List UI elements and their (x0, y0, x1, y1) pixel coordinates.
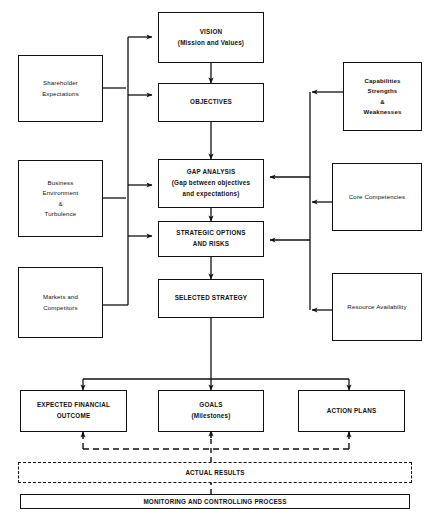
box-line: Turbulence (45, 209, 77, 219)
box-line: (Gap between objectives (172, 178, 250, 189)
box-objectives[interactable]: OBJECTIVES (158, 83, 264, 122)
box-vision[interactable]: VISION (Mission and Values) (158, 12, 264, 63)
box-line: OBJECTIVES (190, 97, 232, 108)
box-resource-availability[interactable]: Resource Availability (332, 273, 422, 341)
box-line: ACTION PLANS (327, 406, 377, 417)
box-line: Weaknesses (364, 107, 402, 117)
box-line: STRATEGIC OPTIONS (176, 228, 245, 239)
box-line: Markets and (43, 292, 78, 302)
box-selected-strategy[interactable]: SELECTED STRATEGY (158, 279, 264, 318)
box-action-plans[interactable]: ACTION PLANS (298, 390, 405, 432)
box-gap-analysis[interactable]: GAP ANALYSIS (Gap between objectives and… (158, 159, 264, 208)
box-monitoring-controlling-process[interactable]: MONITORING AND CONTROLLING PROCESS (20, 494, 410, 509)
box-actual-results[interactable]: ACTUAL RESULTS (18, 462, 412, 483)
box-line: Business (48, 178, 74, 188)
box-core-competencies[interactable]: Core Competencies (332, 163, 422, 231)
box-line: OUTCOME (57, 411, 91, 422)
actual-results-label: ACTUAL RESULTS (185, 469, 244, 476)
box-line: GOALS (199, 400, 222, 411)
box-line: & (58, 199, 62, 209)
box-line: Environment (43, 188, 79, 198)
box-line: (Mission and Values) (178, 38, 244, 49)
box-markets-competitors[interactable]: Markets and Competitors (18, 267, 103, 338)
box-line: SELECTED STRATEGY (175, 293, 248, 304)
monitoring-label: MONITORING AND CONTROLLING PROCESS (143, 498, 286, 505)
box-line: EXPECTED FINANCIAL (37, 400, 110, 411)
box-line: (Milestones) (191, 411, 230, 422)
box-line: Resource Availability (347, 302, 406, 312)
box-line: and expectations) (183, 189, 240, 200)
box-capabilities[interactable]: Capabilities Strengths & Weaknesses (343, 62, 422, 131)
box-business-environment[interactable]: Business Environment & Turbulence (18, 160, 103, 237)
box-line: VISION (200, 27, 223, 38)
box-shareholder-expectations[interactable]: Shareholder Expectations (18, 55, 103, 122)
diagram-canvas: Shareholder Expectations Business Enviro… (0, 0, 430, 527)
box-line: Capabilities (364, 76, 400, 86)
box-line: & (380, 97, 385, 107)
box-line: Core Competencies (349, 192, 405, 202)
box-strategic-options[interactable]: STRATEGIC OPTIONS AND RISKS (158, 221, 264, 257)
box-line: Shareholder (43, 78, 78, 88)
box-line: Competitors (43, 303, 78, 313)
box-line: GAP ANALYSIS (187, 167, 236, 178)
box-line: Expectations (42, 89, 79, 99)
box-expected-financial-outcome[interactable]: EXPECTED FINANCIAL OUTCOME (20, 390, 127, 432)
box-line: Strengths (368, 86, 398, 96)
box-line: AND RISKS (193, 239, 229, 250)
box-goals[interactable]: GOALS (Milestones) (158, 390, 264, 432)
